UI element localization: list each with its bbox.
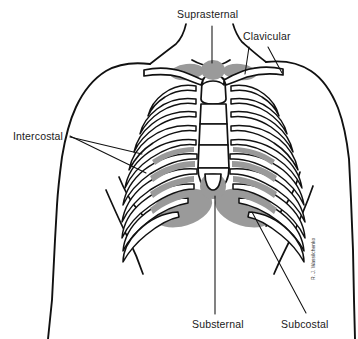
artist-signature: R. J. Wassilchenko [310,237,316,280]
neck-left-line [150,24,186,64]
label-clavicular: Clavicular [243,30,291,42]
label-intercostal: Intercostal [13,130,63,142]
label-suprasternal: Suprasternal [177,8,238,20]
sternum-body-2 [199,124,228,145]
label-substernal: Substernal [192,318,244,330]
sternum-body-1 [200,104,227,124]
chest-retraction-diagram: Suprasternal Clavicular Intercostal Subs… [0,0,358,339]
label-subcostal: Subcostal [281,318,328,330]
suprasternal-shade [201,60,225,80]
sternum-body-3 [198,145,229,168]
anatomical-figure: Suprasternal Clavicular Intercostal Subs… [0,0,358,339]
